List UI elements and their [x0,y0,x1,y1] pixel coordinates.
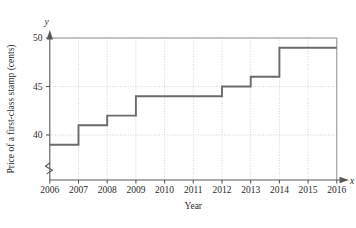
x-tick-label-2010: 2010 [155,185,174,195]
y-axis [47,30,53,180]
y-axis-variable-name: y [43,17,49,27]
chart-canvas: 50 45 40 2006 2007 2008 2009 2010 2011 2… [0,0,356,228]
y-tick-label-50: 50 [33,33,43,43]
x-tick-label-2007: 2007 [69,185,88,195]
x-tick-label-2015: 2015 [299,185,318,195]
y-axis-title: Price of a first-class stamp (cents) [6,45,17,174]
x-tick-label-2008: 2008 [98,185,117,195]
x-axis-title: Year [185,201,203,211]
grid-vertical [79,38,309,180]
grid-horizontal [50,87,337,136]
x-axis [50,177,349,183]
x-tick-label-2014: 2014 [270,185,289,195]
x-tick-label-2009: 2009 [126,185,145,195]
y-tick-label-40: 40 [33,130,43,140]
y-axis-break-icon [45,163,52,174]
x-tick-label-2011: 2011 [184,185,203,195]
x-tick-label-2006: 2006 [40,185,59,195]
y-axis-ticks [46,38,50,135]
x-axis-variable-name: x [349,176,355,186]
x-tick-label-2013: 2013 [241,185,260,195]
y-tick-label-45: 45 [33,82,43,92]
x-tick-label-2012: 2012 [213,185,232,195]
chart-figure: 50 45 40 2006 2007 2008 2009 2010 2011 2… [0,0,356,228]
x-tick-label-2016: 2016 [327,185,346,195]
